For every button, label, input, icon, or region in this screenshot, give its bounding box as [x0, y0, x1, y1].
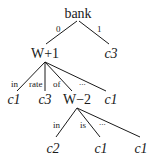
- leaf-c1: c1: [7, 92, 20, 107]
- edge-label-in: in: [53, 120, 61, 130]
- leaf-c1: c1: [94, 141, 107, 156]
- edge-label-rate: rate: [29, 79, 43, 89]
- node-w-minus-2: W−2: [63, 92, 91, 107]
- leaf-c2: c2: [46, 141, 59, 156]
- root-node-bank: bank: [64, 6, 91, 21]
- edge-label-is: is: [80, 120, 87, 130]
- edge-root-to-c3: [79, 21, 109, 44]
- leaf-c3: c3: [104, 46, 117, 61]
- edge-label-1: 1: [97, 24, 102, 34]
- edge-label-ellipsis: ...: [99, 117, 106, 127]
- node-w-plus-1: W+1: [31, 46, 59, 61]
- edge-label-of: of: [53, 79, 61, 89]
- edge-root-to-w+1: [46, 21, 77, 44]
- leaf-c1: c1: [104, 92, 117, 107]
- edge-label-0: 0: [56, 24, 61, 34]
- decision-tree-diagram: bank 0 1 W+1 c3 in rate of ... c1 c3 W−2…: [0, 0, 154, 161]
- leaf-c1: c1: [134, 141, 147, 156]
- edge-label-in: in: [11, 79, 19, 89]
- edge-w-2-ellipsis: [77, 108, 140, 137]
- edge-label-ellipsis: ...: [79, 77, 86, 87]
- leaf-c3: c3: [38, 92, 51, 107]
